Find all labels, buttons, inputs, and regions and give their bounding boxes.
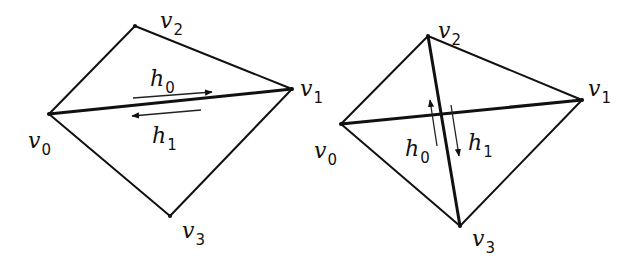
vertex-v1 xyxy=(580,98,584,102)
vertex-v2 xyxy=(133,24,137,28)
edge-v0-v2 xyxy=(49,26,135,114)
vertex-v3 xyxy=(458,224,462,228)
edge-v1-v3 xyxy=(170,89,292,216)
edge-flip-diagram: v0v1v2v3h0h1 v0v1v2v3h0h1 xyxy=(0,0,632,268)
vertex-v3 xyxy=(168,214,172,218)
edge-v0-v2 xyxy=(341,36,428,124)
half-edge-label-h0: h0 xyxy=(405,136,430,167)
edge-v1-v3 xyxy=(460,100,582,226)
half-edge-h1-arrow-icon xyxy=(132,110,201,116)
half-edge-label-h1: h1 xyxy=(152,123,177,154)
edge-v3-v0 xyxy=(341,124,460,226)
half-edge-label-h1: h1 xyxy=(468,130,493,161)
vertex-label-v0: v0 xyxy=(28,128,51,159)
half-edge-h0-arrow-icon xyxy=(430,100,437,146)
vertex-label-v2: v2 xyxy=(160,8,183,39)
vertex-v0 xyxy=(47,112,51,116)
vertex-label-v1: v1 xyxy=(588,76,611,107)
vertex-label-v0: v0 xyxy=(314,138,337,169)
vertex-v0 xyxy=(339,122,343,126)
diagonal-v0-v1 xyxy=(341,100,582,124)
vertex-label-v3: v3 xyxy=(182,218,205,249)
left-quad-before-flip: v0v1v2v3h0h1 xyxy=(28,8,323,249)
vertex-label-v3: v3 xyxy=(472,226,495,257)
half-edge-label-h0: h0 xyxy=(150,66,175,97)
vertex-v2 xyxy=(426,34,430,38)
vertex-label-v1: v1 xyxy=(300,76,323,107)
right-quad-after-flip: v0v1v2v3h0h1 xyxy=(314,18,611,257)
vertex-v1 xyxy=(290,87,294,91)
